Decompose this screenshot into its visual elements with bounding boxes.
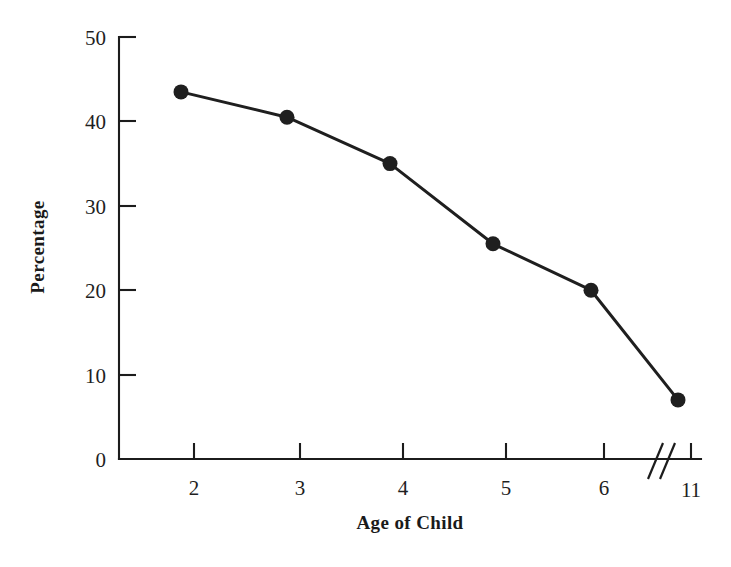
y-tick-label-30: 30 [85, 195, 106, 219]
x-tick-label-3: 3 [295, 476, 306, 500]
y-tick-label-40: 40 [85, 110, 106, 134]
chart-container: 50 40 30 20 10 0 2 3 4 5 6 11 [0, 0, 731, 567]
x-tick-label-2: 2 [189, 476, 200, 500]
x-axis-title: Age of Child [356, 512, 463, 533]
data-point-5 [486, 236, 501, 251]
data-point-3 [280, 110, 295, 125]
line-chart: 50 40 30 20 10 0 2 3 4 5 6 11 [0, 0, 731, 567]
y-tick-label-20: 20 [85, 279, 106, 303]
data-point-11 [671, 392, 686, 407]
x-tick-label-11: 11 [681, 478, 701, 502]
y-tick-label-10: 10 [85, 364, 106, 388]
data-point-4 [383, 156, 398, 171]
y-tick-label-0: 0 [96, 448, 107, 472]
data-point-2 [174, 84, 189, 99]
chart-background [0, 0, 731, 567]
y-axis-title: Percentage [27, 200, 48, 293]
x-tick-label-6: 6 [599, 476, 610, 500]
x-tick-label-5: 5 [501, 476, 512, 500]
x-tick-label-4: 4 [398, 476, 409, 500]
y-tick-label-50: 50 [85, 26, 106, 50]
data-point-6 [584, 283, 599, 298]
